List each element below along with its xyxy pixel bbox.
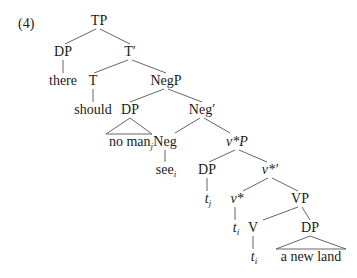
node-tp: TP <box>91 14 107 28</box>
node-vstar: v* <box>230 192 243 206</box>
leaf-should: should <box>74 103 111 117</box>
node-dp-no-man: DP <box>121 103 139 117</box>
tree-branches <box>0 0 357 278</box>
leaf-trace-i-vstar: ti <box>233 221 239 235</box>
node-neg: Neg <box>153 135 176 149</box>
leaf-see: seei <box>156 163 176 177</box>
node-vstar-bar: v*′ <box>262 163 278 177</box>
leaf-trace-j: tj <box>205 192 211 206</box>
node-t-bar: T′ <box>124 45 136 59</box>
node-dp-trace: DP <box>198 163 216 177</box>
leaf-no-man: no manj <box>109 135 153 149</box>
node-dp-object: DP <box>301 221 319 235</box>
leaf-trace-i-v: ti <box>251 250 257 264</box>
node-negp: NegP <box>150 74 181 88</box>
node-v: V <box>248 221 258 235</box>
node-neg-bar: Neg′ <box>189 103 215 117</box>
node-dp-subject: DP <box>54 45 72 59</box>
leaf-there: there <box>49 74 77 88</box>
node-vp: VP <box>291 192 309 206</box>
node-t: T <box>89 74 98 88</box>
node-vstar-p: v*P <box>226 135 248 149</box>
leaf-a-new-land: a new land <box>281 250 342 264</box>
